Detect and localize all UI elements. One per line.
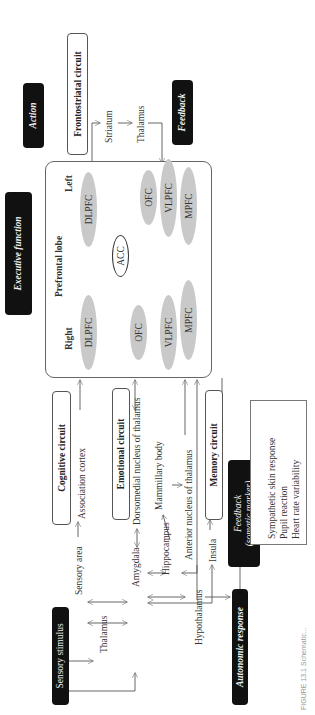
anterior-nucleus-label: Anterior nucleus of thalamus (185, 449, 195, 560)
right-vlpfc-label: VLPFC (164, 318, 174, 348)
association-cortex-label: Association cortex (78, 448, 88, 519)
left-hemisphere-label: Left (65, 175, 75, 192)
frontostriatal-circuit-label: Frontostriatal circuit (73, 51, 83, 136)
right-ofc: OFC (130, 305, 147, 360)
left-ofc-label: OFC (144, 188, 154, 206)
left-mpfc: MPFC (180, 167, 197, 245)
cognitive-circuit-label: Cognitive circuit (57, 424, 67, 492)
hypothalamus-label: Hypothalamus (195, 590, 205, 645)
emotional-circuit-box: Emotional circuit (112, 388, 130, 520)
autonomic-response-badge: Autonomic response (232, 589, 248, 705)
left-mpfc-label: MPFC (184, 193, 194, 218)
executive-function-label: Executive function (13, 216, 24, 290)
amygdala-label: Amygdala (132, 547, 142, 587)
physiological-measures-box: Sympathetic skin response Pupil reaction… (250, 400, 307, 545)
right-hemisphere-label: Right (65, 327, 75, 350)
left-vlpfc: VLPFC (160, 159, 177, 237)
executive-function-badge: Executive function (5, 192, 32, 315)
action-label: Action (28, 103, 39, 129)
left-ofc: OFC (140, 170, 157, 225)
measure-skin-response: Sympathetic skin response (267, 406, 279, 539)
thalamus-frontostriatal-label: Thalamus (137, 106, 147, 143)
memory-circuit-box: Memory circuit (205, 390, 223, 520)
measure-pupil: Pupil reaction (279, 406, 291, 539)
thalamus-label: Thalamus (100, 616, 110, 653)
dorsomedial-label: Dorsomedial nucleus of thalamus (133, 398, 143, 525)
feedback-label: Feedback (177, 94, 188, 132)
left-vlpfc-label: VLPFC (164, 183, 174, 213)
figure-caption: FIGURE 13.1 Schematic... (300, 628, 307, 710)
emotional-circuit-label: Emotional circuit (116, 419, 126, 490)
sensory-area-label: Sensory area (75, 546, 85, 595)
feedback-badge: Feedback (172, 80, 193, 145)
cognitive-circuit-box: Cognitive circuit (52, 391, 71, 525)
acc-node: ACC (112, 235, 129, 277)
hippocampus-label: Hippocampus (162, 522, 172, 575)
right-ofc-label: OFC (134, 323, 144, 341)
acc-label: ACC (116, 246, 126, 266)
right-mpfc-label: MPFC (184, 307, 194, 332)
insula-label: Insula (209, 539, 219, 562)
memory-circuit-label: Memory circuit (209, 423, 219, 486)
prefrontal-lobe-title: Prefrontal lobe (55, 236, 65, 297)
sensory-stimulus-badge: Sensory stimulus (52, 607, 69, 705)
frontostriatal-circuit-box: Frontostriatal circuit (67, 33, 88, 155)
autonomic-response-label: Autonomic response (235, 607, 246, 687)
mammillary-label: Mammillary body (155, 441, 165, 510)
right-dlpfc: DLPFC (80, 295, 97, 370)
measure-hrv: Heart rate variability (291, 406, 303, 539)
action-badge: Action (23, 83, 44, 148)
diagram-canvas: Executive function Action Feedback Front… (0, 0, 315, 715)
right-dlpfc-label: DLPFC (84, 318, 94, 348)
sensory-stimulus-label: Sensory stimulus (55, 623, 66, 688)
right-mpfc: MPFC (180, 280, 197, 360)
left-dlpfc-label: DLPFC (84, 195, 94, 225)
somatic-feedback-line1: Feedback (233, 495, 244, 532)
right-vlpfc: VLPFC (160, 295, 177, 370)
left-dlpfc: DLPFC (80, 172, 97, 247)
striatum-label: Striatum (105, 110, 115, 143)
